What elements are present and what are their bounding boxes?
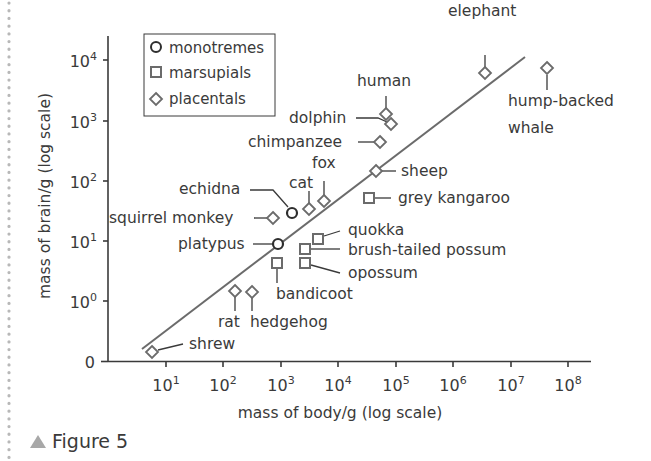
marker-squirrel-monkey [267, 212, 279, 224]
label-rat: rat [218, 313, 240, 331]
x-tick-10e2: 102 [209, 374, 236, 395]
marker-elephant [479, 67, 491, 79]
triangle-marker-icon [30, 435, 46, 448]
y-tick-10e1: 101 [70, 231, 97, 252]
label-quokka: quokka [348, 221, 404, 239]
figure-caption-text: Figure 5 [52, 430, 128, 452]
x-tick-labels: 101 102 103 104 105 106 107 108 [152, 374, 581, 395]
label-sheep: sheep [401, 162, 448, 180]
y-tick-10e0: 100 [70, 291, 97, 312]
label-dolphin: dolphin [289, 109, 346, 127]
x-tick-10e6: 106 [439, 374, 466, 395]
x-tick-10e4: 104 [324, 374, 351, 395]
marker-fox [318, 195, 330, 207]
marker-quokka [313, 234, 323, 244]
y-tick-10e4: 104 [70, 50, 97, 71]
y-axis-title: mass of brain/g (log scale) [36, 93, 54, 299]
marker-shrew [146, 346, 158, 358]
y-tick-labels: 104 103 102 101 100 0 [70, 50, 97, 372]
marker-hump-backed-whale [541, 62, 553, 74]
scatter-chart: 104 103 102 101 100 0 101 102 103 104 10… [0, 0, 651, 461]
marker-cat [303, 203, 315, 215]
y-tick-10e2: 102 [70, 171, 97, 192]
x-tick-10e7: 107 [497, 374, 524, 395]
label-chimpanzee: chimpanzee [248, 133, 342, 151]
marker-platypus [273, 239, 283, 249]
legend: monotremes marsupials placentals [144, 34, 275, 116]
figure-caption: Figure 5 [30, 430, 128, 452]
label-fox: fox [312, 154, 336, 172]
marker-rat [229, 285, 241, 297]
label-echidna: echidna [179, 180, 240, 198]
label-squirrel-monkey: squirrel monkey [109, 209, 233, 227]
marker-hedgehog [246, 286, 258, 298]
label-cat: cat [289, 174, 313, 192]
marker-chimpanzee [374, 136, 386, 148]
label-hedgehog: hedgehog [250, 313, 328, 331]
legend-marsupials: marsupials [169, 64, 251, 82]
label-grey-kangaroo: grey kangaroo [398, 189, 510, 207]
x-axis-title: mass of body/g (log scale) [238, 404, 442, 422]
marker-brush-tailed-possum [300, 244, 310, 254]
y-tick-10e3: 103 [70, 111, 97, 132]
x-tick-10e8: 108 [554, 374, 581, 395]
marker-grey-kangaroo [364, 193, 374, 203]
x-tick-10e1: 101 [152, 374, 179, 395]
x-tick-10e3: 103 [267, 374, 294, 395]
monotreme-markers [273, 208, 297, 249]
marker-bandicoot [272, 258, 282, 268]
label-brush-tailed-possum: brush-tailed possum [348, 241, 506, 259]
label-hump-backed: hump-backed [508, 92, 614, 110]
label-opossum: opossum [348, 264, 418, 282]
marker-opossum [300, 258, 310, 268]
label-human: human [357, 72, 411, 90]
label-platypus: platypus [178, 235, 245, 253]
legend-placentals: placentals [169, 90, 246, 108]
x-tick-10e5: 105 [382, 374, 409, 395]
y-tick-0: 0 [85, 353, 95, 372]
label-bandicoot: bandicoot [276, 285, 353, 303]
label-whale: whale [508, 119, 554, 137]
label-elephant: elephant [448, 2, 516, 20]
legend-monotremes: monotremes [169, 39, 264, 57]
marker-echidna [287, 208, 297, 218]
label-shrew: shrew [189, 335, 235, 353]
